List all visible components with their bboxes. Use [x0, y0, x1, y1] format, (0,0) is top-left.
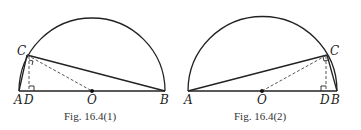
- label-b: B: [159, 93, 169, 107]
- figure-16-4-2: C A O D B Fig. 16.4(2): [183, 17, 340, 124]
- label-a: A: [183, 93, 193, 107]
- label-a: A: [13, 93, 23, 107]
- right-angle-mark-d: [321, 86, 326, 91]
- semicircle-arc: [188, 17, 337, 92]
- label-d: D: [319, 93, 330, 107]
- label-o: O: [87, 93, 97, 107]
- caption: Fig. 16.4(2): [234, 110, 287, 123]
- radius-oc: [262, 55, 327, 91]
- caption: Fig. 16.4(1): [64, 110, 117, 123]
- chord-cb: [27, 55, 165, 91]
- label-c: C: [17, 44, 26, 58]
- chord-ac: [188, 55, 327, 91]
- label-b: B: [330, 93, 340, 107]
- semicircle-arc: [19, 18, 165, 91]
- right-angle-mark-c: [29, 60, 33, 65]
- label-c: C: [330, 44, 339, 58]
- figure-16-4-1: C A D O B Fig. 16.4(1): [13, 18, 169, 123]
- radius-oc: [27, 55, 92, 91]
- right-angle-mark-d: [29, 86, 34, 91]
- label-d: D: [23, 93, 34, 107]
- diagram-canvas: C A D O B Fig. 16.4(1) C A O D B Fig. 16…: [0, 0, 361, 130]
- label-o: O: [257, 93, 267, 107]
- chord-ac: [19, 55, 27, 91]
